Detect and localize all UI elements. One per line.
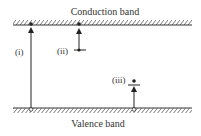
transition-ii [74,22,86,51]
valence-band-label: Valence band [71,118,125,129]
hole-circle [29,108,33,112]
transition-i [29,22,33,111]
transition-iii-label: (iii) [112,75,126,85]
electron-dot [29,22,33,26]
conduction-band-label: Conduction band [71,6,140,17]
band-diagram: Conduction band Valence band (i) (ii) (i… [0,0,201,136]
electron-dot [132,79,136,83]
transition-iii [128,79,140,111]
transition-ii-label: (ii) [57,46,68,56]
transition-i-label: (i) [15,47,24,57]
conduction-band [13,20,192,25]
valence-band [13,108,192,113]
donor-dot [77,48,80,51]
hole-circle [132,108,136,112]
electron-dot [77,22,81,26]
